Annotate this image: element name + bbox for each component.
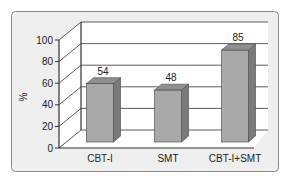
y-tick-label: 100 (36, 35, 53, 46)
y-axis-label: % (18, 92, 29, 101)
y-tick-label: 0 (47, 143, 53, 154)
y-tick-label: 40 (42, 99, 54, 110)
x-category-label: SMT (157, 153, 178, 164)
bar-chart: 020406080100 544885 CBT-ISMTCBT-I+SMT % (0, 0, 289, 182)
x-category-label: CBT-I (87, 153, 113, 164)
data-label: 54 (97, 66, 109, 77)
x-category-label: CBT-I+SMT (209, 153, 262, 164)
y-tick-label: 20 (42, 121, 54, 132)
data-label: 85 (232, 32, 244, 43)
bar-cbt-i-smt: 85 (222, 32, 256, 142)
y-tick-label: 80 (42, 56, 54, 67)
y-tick-label: 60 (42, 78, 54, 89)
data-label: 48 (165, 72, 177, 83)
side-wall (59, 22, 81, 148)
